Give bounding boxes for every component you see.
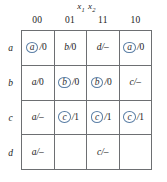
output-value: 0	[42, 42, 47, 53]
row-label-c: c	[2, 100, 19, 135]
table-cell-a-01[interactable]: b/0	[55, 31, 88, 65]
stable-state-circle: c	[61, 112, 67, 123]
state-letter: b	[95, 77, 100, 87]
stable-state-circle: b	[94, 77, 101, 88]
flow-table-figure: x1x2 00 01 11 10 a b c d a/0b/0d/–a/0a/0…	[0, 0, 167, 182]
table-cell-d-00[interactable]: a/–	[22, 135, 55, 169]
cell-content: b/0	[61, 77, 79, 88]
row-labels: a b c d	[2, 30, 19, 170]
output-value: 0	[72, 42, 77, 53]
output-value: 0	[140, 42, 145, 53]
cell-content: b/0	[64, 42, 76, 53]
output-value: 1	[107, 112, 112, 123]
input-variable-1-subscript: 1	[81, 6, 85, 13]
state-letter: b	[62, 77, 67, 87]
table-cell-b-01[interactable]: b/0	[55, 66, 88, 100]
stable-state-circle: c	[126, 112, 132, 123]
table-cell-d-01[interactable]	[55, 135, 88, 169]
state-letter: c	[127, 112, 131, 122]
table-cell-c-01[interactable]: c/1	[55, 101, 88, 135]
column-header-11: 11	[87, 14, 120, 27]
cell-content: a/–	[32, 147, 44, 158]
column-header-00: 00	[21, 14, 54, 27]
table-cell-b-10[interactable]: c/–	[120, 66, 152, 100]
table-row: a/–c/1c/1c/1	[22, 101, 151, 136]
state-letter: a	[30, 42, 35, 52]
cell-content: c/1	[94, 112, 112, 123]
table-cell-c-00[interactable]: a/–	[22, 101, 55, 135]
cell-content: a/0	[32, 77, 44, 88]
column-header-10: 10	[119, 14, 152, 27]
cell-content: c/1	[126, 112, 144, 123]
row-label-a: a	[2, 30, 19, 65]
table-cell-d-10[interactable]	[120, 135, 152, 169]
table-cell-b-11[interactable]: b/0	[87, 66, 120, 100]
table-cell-a-11[interactable]: d/–	[87, 31, 120, 65]
column-header-01: 01	[54, 14, 87, 27]
stable-state-circle: c	[94, 112, 100, 123]
stable-state-circle: a	[29, 42, 36, 53]
stable-state-circle: a	[126, 42, 133, 53]
output-value: –	[136, 77, 141, 88]
table-cell-d-11[interactable]: c/–	[87, 135, 120, 169]
output-value: –	[104, 147, 109, 158]
table-row: a/0b/0b/0c/–	[22, 66, 151, 101]
column-headers: 00 01 11 10	[21, 14, 152, 27]
cell-content: b/0	[94, 77, 112, 88]
cell-content: a/–	[32, 112, 44, 123]
row-label-b: b	[2, 65, 19, 100]
state-letter: c	[62, 112, 66, 122]
output-value: 0	[75, 77, 80, 88]
output-value: 0	[107, 77, 112, 88]
output-value: –	[39, 147, 44, 158]
cell-content: c/–	[97, 147, 109, 158]
state-letter: c	[95, 112, 99, 122]
row-label-d: d	[2, 135, 19, 170]
cell-content: d/–	[97, 42, 109, 53]
table-cell-c-11[interactable]: c/1	[87, 101, 120, 135]
cell-content: c/–	[129, 77, 141, 88]
cell-content: a/0	[29, 42, 47, 53]
input-variables-header: x1x2	[21, 1, 152, 15]
output-value: 0	[39, 77, 44, 88]
table-cell-a-10[interactable]: a/0	[120, 31, 152, 65]
output-value: –	[104, 42, 109, 53]
table-cell-c-10[interactable]: c/1	[120, 101, 152, 135]
table-row: a/–c/–	[22, 135, 151, 169]
output-value: 1	[139, 112, 144, 123]
cell-content: c/1	[61, 112, 79, 123]
flow-table-grid: a/0b/0d/–a/0a/0b/0b/0c/–a/–c/1c/1c/1a/–c…	[21, 30, 152, 170]
table-cell-a-00[interactable]: a/0	[22, 31, 55, 65]
output-value: 1	[74, 112, 79, 123]
output-value: –	[39, 112, 44, 123]
state-letter: a	[127, 42, 132, 52]
cell-content: a/0	[126, 42, 144, 53]
stable-state-circle: b	[61, 77, 68, 88]
table-cell-b-00[interactable]: a/0	[22, 66, 55, 100]
input-variable-2-subscript: 2	[92, 6, 96, 13]
table-row: a/0b/0d/–a/0	[22, 31, 151, 66]
